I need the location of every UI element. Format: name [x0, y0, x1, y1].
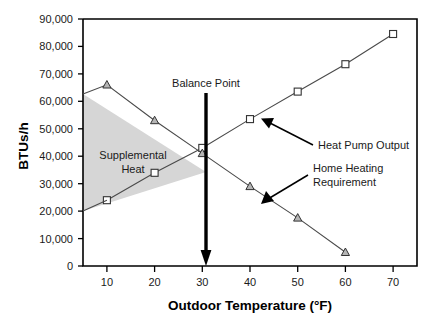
y-tick-label-0: 0 [67, 260, 73, 272]
x-tick-label-60: 60 [339, 276, 351, 288]
y-tick-label-20000: 20,000 [39, 205, 73, 217]
y-tick-label-70000: 70,000 [39, 68, 73, 80]
y-axis-title: BTUs/h [16, 122, 31, 169]
x-axis-title: Outdoor Temperature (°F) [168, 298, 332, 313]
y-tick-label-80000: 80,000 [39, 40, 73, 52]
home-heating-requirement-label-line2: Requirement [313, 176, 376, 188]
x-tick-label-40: 40 [244, 276, 256, 288]
x-tick-label-30: 30 [196, 276, 208, 288]
x-axis-ticks [107, 266, 393, 272]
balance-point-label: Balance Point [172, 77, 240, 89]
x-tick-label-50: 50 [292, 276, 304, 288]
x-tick-label-10: 10 [101, 276, 113, 288]
supplemental-heat-label-line1: Supplemental [99, 149, 166, 161]
y-tick-label-60000: 60,000 [39, 95, 73, 107]
y-tick-label-30000: 30,000 [39, 178, 73, 190]
heat-pump-output-label: Heat Pump Output [318, 139, 409, 151]
heat-pump-balance-point-chart: 0 10,000 20,000 30,000 40,000 50,000 60,… [0, 0, 433, 326]
home-heating-requirement-label-line1: Home Heating [313, 162, 383, 174]
x-tick-label-70: 70 [387, 276, 399, 288]
x-tick-label-20: 20 [148, 276, 160, 288]
supplemental-heat-label-line2: Heat [121, 163, 144, 175]
y-tick-label-10000: 10,000 [39, 233, 73, 245]
y-tick-label-50000: 50,000 [39, 123, 73, 135]
chart-container: 0 10,000 20,000 30,000 40,000 50,000 60,… [0, 0, 433, 326]
y-tick-label-90000: 90,000 [39, 13, 73, 25]
y-tick-label-40000: 40,000 [39, 150, 73, 162]
